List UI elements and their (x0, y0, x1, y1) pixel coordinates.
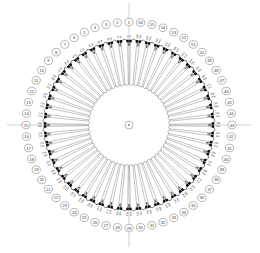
group-badge-label: 50 (200, 50, 205, 55)
leaf-marker (92, 200, 95, 203)
group-badge[interactable]: 24 (70, 208, 78, 216)
group-badge[interactable]: 14 (23, 110, 31, 118)
group-badge[interactable]: 25 (80, 214, 88, 222)
radial-spoke (167, 138, 208, 151)
group-badge[interactable]: 18 (28, 155, 36, 163)
group-badge[interactable]: 39 (218, 166, 226, 174)
leaf-marker (120, 40, 123, 43)
leaf-label: 9b (57, 69, 62, 73)
group-badge[interactable]: 17 (24, 144, 32, 152)
leaf-label: 5b (87, 44, 91, 48)
group-badge[interactable]: 26 (91, 218, 99, 226)
group-badge[interactable]: 28 (113, 224, 121, 232)
group-badge[interactable]: 48 (212, 66, 220, 74)
radial-spoke (163, 80, 199, 103)
radial-spoke (168, 105, 210, 115)
group-badge[interactable]: 2 (113, 19, 121, 27)
leaf-label: 12b (42, 95, 47, 99)
group-badge[interactable]: 31 (148, 222, 156, 230)
group-badge[interactable]: 43 (228, 121, 236, 129)
radial-spoke (78, 157, 104, 191)
group-badge[interactable]: 56 (136, 19, 144, 27)
group-badge[interactable]: 11 (32, 77, 40, 85)
leaf-marker (44, 113, 47, 116)
group-badge[interactable]: 53 (170, 28, 178, 36)
leaf-label: 29a (126, 211, 129, 216)
group-badge[interactable]: 55 (148, 21, 156, 29)
leaf-label: 17b (40, 144, 45, 148)
group-badge[interactable]: 34 (180, 208, 188, 216)
radial-spoke (103, 46, 116, 87)
group-badge-label: 23 (62, 203, 67, 208)
radial-spoke (169, 124, 212, 125)
group-badge[interactable]: 1 (125, 18, 133, 26)
group-badge[interactable]: 45 (225, 98, 233, 106)
group-badge[interactable]: 37 (205, 185, 213, 193)
group-badge-label: 14 (24, 111, 29, 116)
radial-spoke (161, 74, 195, 100)
group-badge[interactable]: 29 (125, 224, 133, 232)
group-badge[interactable]: 30 (136, 224, 144, 232)
group-badge[interactable]: 7 (61, 41, 69, 49)
group-badge-label: 32 (161, 220, 166, 225)
leaf-marker (211, 113, 214, 116)
radial-spoke (130, 165, 131, 208)
group-badge[interactable]: 50 (198, 48, 206, 56)
group-badge[interactable]: 20 (38, 176, 46, 184)
group-badge[interactable]: 9 (44, 57, 52, 65)
group-badge[interactable]: 21 (44, 185, 52, 193)
group-badge[interactable]: 35 (189, 202, 197, 210)
group-badge[interactable]: 51 (189, 41, 197, 49)
group-badge[interactable]: 22 (52, 194, 60, 202)
group-badge[interactable]: 27 (102, 222, 110, 230)
leaf-marker (44, 134, 47, 137)
radial-spoke (169, 126, 212, 127)
leaf-marker (212, 125, 215, 128)
group-badge[interactable]: 16 (23, 133, 31, 141)
leaf-marker (46, 144, 49, 147)
radial-spoke (139, 164, 149, 206)
group-badge[interactable]: 10 (38, 66, 46, 74)
group-badge-label: 21 (46, 187, 51, 192)
group-badge[interactable]: 19 (32, 166, 40, 174)
group-badge[interactable]: 5 (80, 28, 88, 36)
group-badge[interactable]: 40 (222, 155, 230, 163)
leaf-marker (110, 41, 113, 44)
group-badge[interactable]: 36 (198, 194, 206, 202)
group-badge[interactable]: 8 (52, 48, 60, 56)
radial-spoke (69, 153, 100, 183)
group-badge[interactable]: 52 (180, 34, 188, 42)
leaf-marker (204, 159, 207, 162)
group-badge[interactable]: 41 (225, 144, 233, 152)
leaf-label: 13b (39, 105, 44, 109)
leaf-marker (211, 134, 214, 137)
leaf-marker (107, 42, 110, 45)
group-badge[interactable]: 32 (159, 218, 167, 226)
radial-spoke (158, 67, 189, 97)
group-badge[interactable]: 3 (102, 21, 110, 29)
group-badge[interactable]: 13 (24, 98, 32, 106)
group-badge[interactable]: 33 (170, 214, 178, 222)
group-badge[interactable]: 15 (22, 121, 30, 129)
group-badge[interactable]: 54 (159, 24, 167, 32)
group-badge-label: 11 (34, 78, 39, 83)
group-badge[interactable]: 47 (218, 77, 226, 85)
group-badge[interactable]: 4 (91, 24, 99, 32)
leaf-marker (44, 116, 47, 119)
leaf-marker (44, 122, 47, 125)
group-badge[interactable]: 23 (61, 202, 69, 210)
group-badge[interactable]: 6 (70, 34, 78, 42)
group-badge[interactable]: 12 (28, 87, 36, 95)
group-badge[interactable]: 38 (212, 176, 220, 184)
leaf-marker (209, 103, 212, 106)
radial-spoke (71, 154, 101, 185)
group-badge[interactable]: 49 (205, 57, 213, 65)
group-badge[interactable]: 44 (227, 110, 235, 118)
group-badge[interactable]: 42 (227, 133, 235, 141)
group-badge-label: 33 (171, 215, 176, 220)
leaf-marker (136, 207, 139, 210)
leaf-label: 4b (97, 40, 101, 44)
group-badge-label: 15 (24, 123, 29, 128)
radial-spoke (167, 99, 208, 112)
group-badge[interactable]: 46 (222, 87, 230, 95)
